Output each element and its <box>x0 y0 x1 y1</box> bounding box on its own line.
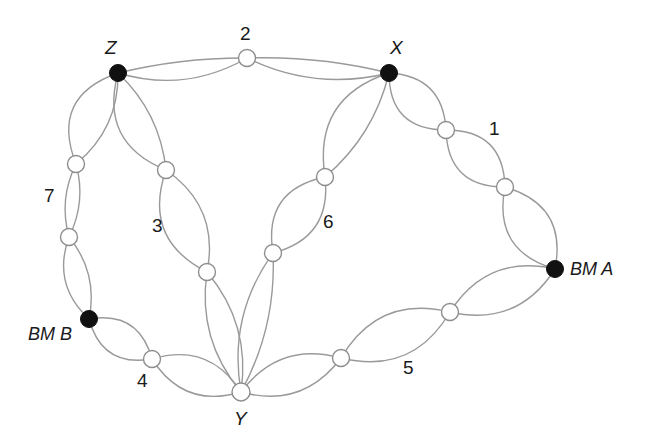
edge-n4-Y <box>152 359 241 396</box>
label-n4: 4 <box>137 371 148 390</box>
label-BMB: BM B <box>28 325 72 343</box>
edge-n1b-BMA <box>503 187 555 269</box>
edge-n6a-n6b <box>273 177 326 253</box>
label-n7b: 7 <box>44 186 55 205</box>
node-n1b[interactable] <box>497 179 514 196</box>
edge-Z-n7a <box>76 73 118 164</box>
edge-n5a-n5b <box>341 312 450 362</box>
node-X[interactable] <box>381 65 398 82</box>
node-n6a[interactable] <box>317 169 334 186</box>
edge-n2-X <box>247 58 389 73</box>
node-n3a[interactable] <box>158 162 175 179</box>
node-n1a[interactable] <box>438 122 455 139</box>
label-n3b: 3 <box>152 216 163 235</box>
node-BMA[interactable] <box>547 261 564 278</box>
node-n2[interactable] <box>239 50 256 67</box>
edge-n6b-Y <box>241 253 273 392</box>
node-n4[interactable] <box>144 351 161 368</box>
edge-n3a-n3b <box>166 170 209 272</box>
edge-n6a-n6b <box>272 177 325 253</box>
node-BMB[interactable] <box>81 311 98 328</box>
node-n5b[interactable] <box>442 304 459 321</box>
edge-n5a-n5b <box>341 308 450 358</box>
node-Y[interactable] <box>232 383 250 401</box>
node-n7b[interactable] <box>61 229 78 246</box>
node-n6b[interactable] <box>265 245 282 262</box>
edge-BMB-n4 <box>89 319 152 360</box>
node-Z[interactable] <box>110 65 127 82</box>
label-Y: Y <box>234 409 247 428</box>
node-layer <box>61 50 564 402</box>
label-X: X <box>390 38 403 57</box>
label-n1b: 1 <box>489 119 500 138</box>
label-n5a: 5 <box>403 358 414 377</box>
edge-X-n6a <box>323 73 389 177</box>
edge-n1b-BMA <box>505 187 557 269</box>
edge-X-n1a <box>389 73 446 130</box>
edge-layer <box>64 58 558 397</box>
edge-Z-n3a <box>114 73 166 170</box>
label-n6b: 6 <box>323 212 334 231</box>
edge-n7b-BMB <box>69 237 91 319</box>
edge-n3b-Y <box>207 272 243 392</box>
edge-BMB-n4 <box>89 318 152 359</box>
edge-n7b-BMB <box>64 237 89 319</box>
network-diagram: ZXBM ABM BY2163745 <box>0 0 655 441</box>
label-Z: Z <box>105 38 117 57</box>
label-n2: 2 <box>240 24 251 43</box>
edge-n3b-Y <box>205 272 241 392</box>
node-n3b[interactable] <box>199 264 216 281</box>
edge-Z-n3a <box>118 73 166 170</box>
node-n7a[interactable] <box>68 156 85 173</box>
label-BMA: BM A <box>570 260 613 278</box>
edge-Z-n2 <box>118 58 247 73</box>
edge-Y-n5a <box>241 358 341 396</box>
edge-X-n1a <box>389 73 446 130</box>
node-n5a[interactable] <box>333 350 350 367</box>
